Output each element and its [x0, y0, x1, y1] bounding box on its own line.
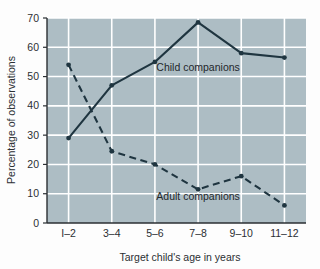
data-point	[109, 149, 114, 154]
line-chart: 010203040506070 I–23–45–67–89–1011–12 Pe…	[0, 0, 320, 269]
data-point	[282, 55, 287, 60]
y-axis-ticks: 010203040506070	[27, 12, 47, 229]
y-axis-title: Percentage of observations	[5, 56, 17, 184]
series-annotation-adult-companions: Adult companions	[156, 190, 239, 202]
data-point	[153, 162, 158, 167]
data-point	[109, 83, 114, 88]
y-tick-label: 20	[27, 158, 39, 170]
y-tick-label: 10	[27, 187, 39, 199]
data-point	[66, 136, 71, 141]
data-point	[239, 174, 244, 179]
x-axis-ticks: I–23–45–67–89–1011–12	[61, 227, 299, 239]
y-tick-label: 40	[27, 99, 39, 111]
x-axis-title: Target child's age in years	[119, 251, 240, 263]
x-tick-label: 9–10	[230, 227, 254, 239]
y-tick-label: 60	[27, 41, 39, 53]
x-tick-label: I–2	[61, 227, 76, 239]
y-tick-label: 30	[27, 129, 39, 141]
x-tick-label: 3–4	[103, 227, 121, 239]
x-tick-label: 7–8	[189, 227, 207, 239]
x-tick-label: 5–6	[146, 227, 164, 239]
chart-figure: 010203040506070 I–23–45–67–89–1011–12 Pe…	[0, 0, 320, 269]
y-tick-label: 0	[33, 217, 39, 229]
y-tick-label: 70	[27, 12, 39, 24]
data-point	[196, 20, 201, 25]
x-tick-label: 11–12	[270, 227, 299, 239]
series-annotation-child-companions: Child companions	[156, 61, 239, 73]
data-point	[66, 62, 71, 67]
data-point	[282, 203, 287, 208]
y-tick-label: 50	[27, 70, 39, 82]
data-point	[239, 51, 244, 56]
